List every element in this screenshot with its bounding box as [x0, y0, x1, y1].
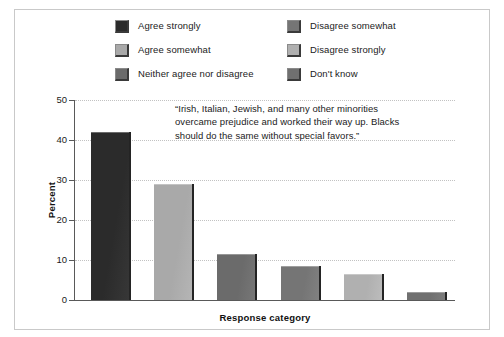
plot-area: 01020304050 Percent “Irish, Italian, Jew… [75, 100, 455, 300]
chart-legend: Agree strongly Agree somewhat Neither ag… [115, 14, 455, 86]
bar [154, 184, 194, 300]
legend-item-label: Agree strongly [138, 21, 201, 31]
legend-item: Neither agree nor disagree [115, 62, 285, 86]
legend-swatch-icon [115, 44, 129, 57]
legend-item-label: Disagree somewhat [310, 21, 396, 31]
legend-item: Don't know [287, 62, 457, 86]
bar [407, 292, 447, 300]
y-axis-title: Percent [21, 170, 81, 230]
bar [91, 132, 131, 300]
y-axis-tick-label: 50 [37, 94, 67, 105]
legend-item-label: Neither agree nor disagree [138, 69, 254, 79]
gridline [75, 180, 455, 181]
chart-annotation-quote: “Irish, Italian, Jewish, and many other … [175, 102, 415, 142]
legend-item: Disagree strongly [287, 38, 457, 62]
legend-swatch-icon [287, 20, 301, 33]
legend-column-right: Disagree somewhat Disagree strongly Don'… [287, 14, 457, 86]
bar [344, 274, 384, 300]
bar [217, 254, 257, 300]
bar [281, 266, 321, 300]
legend-swatch-icon [287, 44, 301, 57]
legend-swatch-icon [287, 68, 301, 81]
x-axis-title: Response category [75, 312, 455, 323]
legend-item-label: Don't know [310, 69, 358, 79]
legend-column-left: Agree strongly Agree somewhat Neither ag… [115, 14, 285, 86]
legend-item-label: Agree somewhat [138, 45, 211, 55]
y-axis-tick-label: 10 [37, 254, 67, 265]
y-axis-tick-label: 0 [37, 294, 67, 305]
legend-item-label: Disagree strongly [310, 45, 386, 55]
y-axis-tick-label: 40 [37, 134, 67, 145]
legend-swatch-icon [115, 68, 129, 81]
gridline [75, 100, 455, 101]
gridline [75, 220, 455, 221]
chart-figure: Agree strongly Agree somewhat Neither ag… [14, 9, 490, 330]
legend-item: Disagree somewhat [287, 14, 457, 38]
legend-item: Agree somewhat [115, 38, 285, 62]
gridline [75, 260, 455, 261]
legend-item: Agree strongly [115, 14, 285, 38]
legend-swatch-icon [115, 20, 129, 33]
x-axis-line [74, 300, 455, 301]
